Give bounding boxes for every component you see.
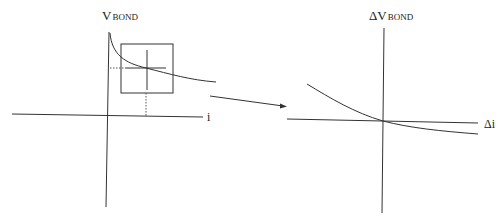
right-y-axis-label: ΔVBOND xyxy=(369,8,414,23)
left-y-axis-label: VBOND xyxy=(102,8,138,23)
right-x-axis-label: Δi xyxy=(484,117,496,131)
delta-curve xyxy=(307,84,478,134)
left-plot: VBOND i xyxy=(12,8,216,207)
price-yield-curve xyxy=(110,33,216,82)
bond-price-diagram: VBOND i ΔVBOND Δi xyxy=(0,0,499,217)
left-y-axis xyxy=(106,32,109,207)
arrow-shaft xyxy=(210,96,283,106)
arrow-head-icon xyxy=(280,104,287,109)
right-plot: ΔVBOND Δi xyxy=(287,8,496,213)
transition-arrow xyxy=(210,96,287,109)
left-x-axis-label: i xyxy=(207,110,211,124)
